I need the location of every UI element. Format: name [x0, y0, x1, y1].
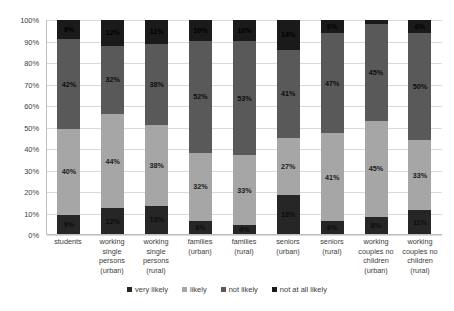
bar-segment-label: 11% — [150, 28, 164, 35]
stacked-bar[interactable]: 18%27%41%14% — [277, 20, 300, 234]
bar-segment-label: 10% — [193, 27, 207, 34]
bar-segment[interactable]: 41% — [277, 50, 300, 138]
bar-segment[interactable]: 10% — [189, 20, 212, 41]
bar-segment[interactable]: 32% — [189, 153, 212, 221]
bar-segment[interactable]: 53% — [233, 41, 256, 154]
bar-segment[interactable]: 13% — [145, 206, 168, 234]
bar-segment[interactable]: 50% — [408, 33, 431, 140]
bar-segment-label: 47% — [325, 80, 339, 87]
stacked-bar[interactable]: 13%38%38%11% — [145, 20, 168, 234]
bar-column[interactable]: 11%33%50%6% — [400, 20, 440, 234]
y-axis-tick-label: 20% — [24, 188, 39, 197]
bar-segment[interactable]: 52% — [189, 41, 212, 152]
bar-segment[interactable]: 32% — [101, 46, 124, 114]
bar-column[interactable]: 4%33%53%10% — [224, 20, 264, 234]
stacked-bar[interactable]: 12%44%32%12% — [101, 20, 124, 234]
y-axis-tick-label: 80% — [24, 59, 39, 68]
bar-segment-label: 10% — [237, 27, 251, 34]
bar-column[interactable]: 12%44%32%12% — [93, 20, 133, 234]
stacked-bar[interactable]: 6%32%52%10% — [189, 20, 212, 234]
bar-segment[interactable]: 33% — [233, 155, 256, 226]
bar-segment[interactable]: 41% — [321, 133, 344, 221]
bar-segment-label: 52% — [193, 93, 207, 100]
bar-segment-label: 38% — [149, 162, 163, 169]
bar-segment[interactable]: 33% — [408, 140, 431, 211]
stacked-bar[interactable]: 6%41%47%6% — [321, 20, 344, 234]
legend-swatch-icon — [182, 287, 187, 292]
bar-segment[interactable]: 9% — [57, 215, 80, 234]
bar-segment[interactable]: 8% — [365, 217, 388, 234]
bar-segment[interactable]: 38% — [145, 44, 168, 125]
bar-segment-label: 12% — [106, 218, 120, 225]
bar-column[interactable]: 8%45%45%2% — [356, 20, 396, 234]
bar-column[interactable]: 13%38%38%11% — [137, 20, 177, 234]
y-axis-tick-label: 70% — [24, 80, 39, 89]
plot-area: 9%40%42%9%12%44%32%12%13%38%38%11%6%32%5… — [46, 20, 442, 235]
bar-segment-label: 42% — [62, 81, 76, 88]
bar-segment[interactable]: 40% — [57, 129, 80, 215]
bar-segment-label: 32% — [106, 76, 120, 83]
stacked-bar[interactable]: 9%40%42%9% — [57, 20, 80, 234]
x-axis-category-label: families (urban) — [179, 237, 222, 279]
stacked-bar[interactable]: 4%33%53%10% — [233, 20, 256, 234]
bar-segment[interactable]: 6% — [408, 20, 431, 33]
bar-segment[interactable]: 11% — [145, 20, 168, 44]
bar-segment-label: 53% — [237, 95, 251, 102]
chart-legend: very likelylikelynot likelynot at all li… — [0, 285, 454, 294]
bar-segment[interactable]: 6% — [321, 221, 344, 234]
bar-segment-label: 32% — [193, 183, 207, 190]
x-axis-category-label: working single persons (rural) — [135, 237, 178, 279]
bar-segment-label: 8% — [371, 222, 381, 229]
y-axis-tick-label: 0% — [28, 231, 39, 240]
bar-segment-label: 27% — [281, 163, 295, 170]
y-axis: 0%10%20%30%40%50%60%70%80%90%100% — [0, 20, 44, 235]
bar-segment[interactable]: 27% — [277, 138, 300, 196]
legend-label: not at all likely — [280, 285, 327, 294]
bar-segment[interactable]: 10% — [233, 20, 256, 41]
legend-item[interactable]: very likely — [127, 285, 168, 294]
bar-segment-label: 9% — [64, 26, 74, 33]
bar-segment-label: 12% — [106, 29, 120, 36]
bar-segment[interactable]: 6% — [189, 221, 212, 234]
bar-column[interactable]: 18%27%41%14% — [268, 20, 308, 234]
bar-segment[interactable]: 9% — [57, 20, 80, 39]
bar-segment[interactable]: 14% — [277, 20, 300, 50]
bar-segment[interactable]: 4% — [233, 225, 256, 234]
bar-column[interactable]: 6%41%47%6% — [312, 20, 352, 234]
bar-column[interactable]: 6%32%52%10% — [180, 20, 220, 234]
bar-segment-label: 50% — [413, 83, 427, 90]
bar-segment[interactable]: 18% — [277, 195, 300, 234]
x-axis-category-label: families (rural) — [223, 237, 266, 279]
bar-segment[interactable]: 2% — [365, 20, 388, 24]
bar-column[interactable]: 9%40%42%9% — [49, 20, 89, 234]
bar-segment-label: 11% — [413, 219, 427, 226]
bar-segment[interactable]: 12% — [101, 20, 124, 46]
legend-item[interactable]: not at all likely — [272, 285, 327, 294]
x-axis-category-label: seniors (urban) — [267, 237, 310, 279]
bar-segment[interactable]: 12% — [101, 208, 124, 234]
stacked-bar[interactable]: 11%33%50%6% — [408, 20, 431, 234]
bar-segment-label: 45% — [369, 69, 383, 76]
bar-segment-label: 18% — [281, 211, 295, 218]
bar-segment-label: 14% — [281, 31, 295, 38]
gridline — [47, 235, 442, 236]
bar-segment[interactable]: 6% — [321, 20, 344, 33]
bar-segment-label: 40% — [62, 168, 76, 175]
bar-segment[interactable]: 45% — [365, 24, 388, 120]
bar-segment-label: 41% — [325, 174, 339, 181]
x-axis-category-label: seniors (rural) — [311, 237, 354, 279]
bar-segment-label: 33% — [237, 187, 251, 194]
bar-segment[interactable]: 38% — [145, 125, 168, 206]
bar-segment[interactable]: 11% — [408, 210, 431, 234]
stacked-bar-chart: 0%10%20%30%40%50%60%70%80%90%100% 9%40%4… — [0, 0, 454, 311]
bar-segment-label: 6% — [327, 224, 337, 231]
x-axis-category-label: working couples no children (rural) — [399, 237, 442, 279]
bar-segment[interactable]: 44% — [101, 114, 124, 208]
legend-item[interactable]: not likely — [221, 285, 258, 294]
bar-segment[interactable]: 45% — [365, 121, 388, 217]
bar-segment[interactable]: 42% — [57, 39, 80, 129]
bar-segment[interactable]: 47% — [321, 33, 344, 134]
bar-segment-label: 6% — [415, 23, 425, 30]
legend-item[interactable]: likely — [182, 285, 207, 294]
stacked-bar[interactable]: 8%45%45%2% — [365, 20, 388, 234]
